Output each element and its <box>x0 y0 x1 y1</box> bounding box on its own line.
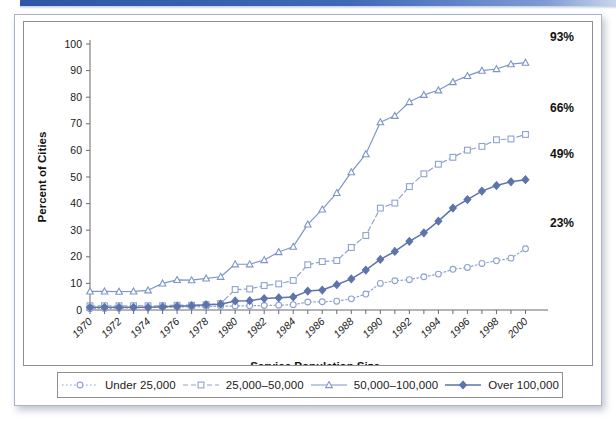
legend-item-4[interactable]: Over 100,000 <box>444 379 559 391</box>
data-point-marker <box>304 287 311 295</box>
data-point-marker <box>435 271 441 277</box>
legend-item-1[interactable]: Under 25,000 <box>61 379 176 391</box>
marker-circle <box>276 302 282 308</box>
marker-circle <box>348 296 354 302</box>
y-axis-tick-label: 20 <box>70 250 82 262</box>
data-point-marker <box>464 196 471 204</box>
data-point-marker <box>261 295 268 303</box>
data-point-marker <box>247 286 253 292</box>
data-point-marker <box>406 99 413 105</box>
data-point-marker <box>479 187 486 195</box>
series-end-label-2: 66% <box>550 101 574 115</box>
data-point-marker <box>348 296 354 302</box>
data-point-marker <box>450 154 456 160</box>
marker-square <box>450 154 456 160</box>
x-axis-tick-label: 1978 <box>186 315 211 340</box>
y-axis-title: Percent of Cities <box>36 132 48 223</box>
data-point-marker <box>261 303 267 309</box>
y-axis-tick-label: 0 <box>76 304 82 316</box>
data-point-marker <box>319 259 325 265</box>
data-point-marker <box>261 257 268 263</box>
data-point-marker <box>333 281 340 289</box>
data-point-marker <box>276 281 282 287</box>
x-axis-tick-label: 2000 <box>504 315 530 341</box>
marker-circle <box>465 265 471 271</box>
series-1 <box>87 246 528 312</box>
y-axis-tick-label: 50 <box>70 171 82 183</box>
page-root: 0102030405060708090100Percent of Cities1… <box>0 0 616 425</box>
data-point-marker <box>77 382 83 388</box>
marker-square <box>494 137 500 143</box>
data-point-marker <box>392 278 398 284</box>
x-axis-tick-label: 1992 <box>389 315 414 340</box>
data-point-marker <box>465 265 471 271</box>
data-point-marker <box>479 261 485 267</box>
data-point-marker <box>290 302 296 308</box>
marker-square <box>198 382 204 388</box>
legend-item-2[interactable]: 25,000–50,000 <box>182 379 304 391</box>
data-point-marker <box>421 274 427 280</box>
y-axis-tick-label: 80 <box>70 91 82 103</box>
y-axis-tick-label: 60 <box>70 144 82 156</box>
marker-circle <box>377 281 383 287</box>
marker-circle <box>435 271 441 277</box>
marker-diamond <box>406 238 413 246</box>
data-point-marker <box>290 278 296 284</box>
data-point-marker <box>479 144 485 150</box>
marker-circle <box>494 258 500 264</box>
data-point-marker <box>348 275 355 283</box>
data-point-marker <box>494 258 500 264</box>
series-end-label-3: 93% <box>550 30 574 44</box>
data-point-marker <box>493 182 500 190</box>
chart-panel: 0102030405060708090100Percent of Cities1… <box>23 21 593 366</box>
marker-diamond <box>479 187 486 195</box>
data-point-marker <box>261 283 267 289</box>
data-point-marker <box>406 277 412 283</box>
marker-circle <box>319 299 325 305</box>
data-point-marker <box>523 132 529 138</box>
legend-swatch-open-square-icon <box>182 379 220 391</box>
legend-label-1: Under 25,000 <box>105 379 176 391</box>
marker-square <box>377 205 383 211</box>
data-point-marker <box>198 382 204 388</box>
x-axis-tick-label: 1986 <box>302 315 327 340</box>
marker-square <box>348 245 354 251</box>
data-point-marker <box>508 255 514 261</box>
data-point-marker <box>421 171 427 177</box>
marker-diamond <box>391 248 398 256</box>
legend-label-2: 25,000–50,000 <box>226 379 304 391</box>
marker-square <box>305 262 311 268</box>
marker-circle <box>450 266 456 272</box>
marker-triangle <box>406 99 413 105</box>
marker-circle <box>406 277 412 283</box>
marker-square <box>334 258 340 264</box>
x-axis-tick-label: 1982 <box>244 315 269 340</box>
legend-swatch-open-triangle-icon <box>310 379 348 391</box>
marker-square <box>392 200 398 206</box>
data-point-marker <box>508 178 515 186</box>
data-point-marker <box>391 248 398 256</box>
marker-circle <box>290 302 296 308</box>
marker-circle <box>479 261 485 267</box>
x-axis-title: Service Population Size <box>250 360 380 365</box>
marker-triangle <box>435 87 442 93</box>
data-point-marker <box>363 233 369 239</box>
legend-swatch-open-circle-icon <box>61 379 99 391</box>
marker-diamond <box>261 295 268 303</box>
marker-circle <box>77 382 83 388</box>
series-4 <box>87 176 529 311</box>
y-axis-tick-label: 90 <box>70 64 82 76</box>
data-point-marker <box>363 151 370 157</box>
data-point-marker <box>435 87 442 93</box>
data-point-marker <box>435 161 441 167</box>
legend-label-3: 50,000–100,000 <box>354 379 439 391</box>
marker-circle <box>305 299 311 305</box>
x-axis-tick-label: 1996 <box>447 315 472 340</box>
marker-square <box>479 144 485 150</box>
marker-triangle <box>363 151 370 157</box>
x-axis-tick-label: 1970 <box>69 315 94 340</box>
data-point-marker <box>523 246 529 252</box>
marker-circle <box>334 298 340 304</box>
marker-circle <box>392 278 398 284</box>
legend-item-3[interactable]: 50,000–100,000 <box>310 379 439 391</box>
